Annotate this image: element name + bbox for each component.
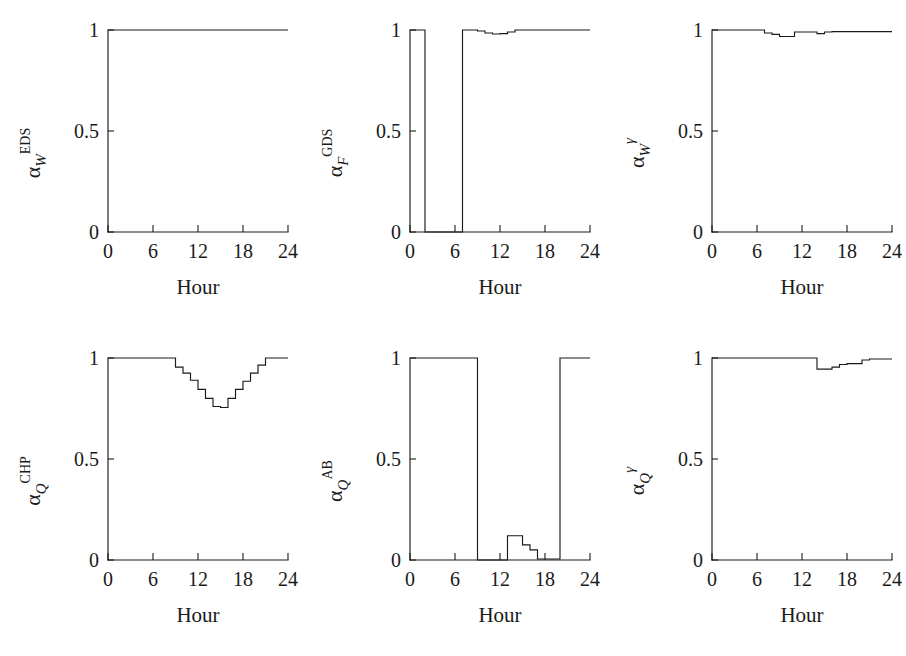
y-tick-label: 0.5	[74, 120, 99, 142]
y-tick-label: 0.5	[376, 120, 401, 142]
x-tick-label: 18	[837, 568, 857, 590]
x-tick-label: 0	[103, 240, 113, 262]
y-tick-label: 0.5	[74, 448, 99, 470]
x-tick-label: 24	[882, 240, 902, 262]
plot-svg-4: 00.5106121824HourαQAB	[302, 328, 604, 656]
y-tick-label: 0	[391, 221, 401, 243]
x-tick-label: 24	[278, 568, 298, 590]
y-axis-label: αQγ	[621, 466, 653, 495]
y-tick-label: 0	[391, 549, 401, 571]
panel-alpha-w-eds: 00.5106121824HourαWEDS	[0, 0, 302, 328]
panel-alpha-q-ab: 00.5106121824HourαQAB	[302, 328, 604, 656]
y-tick-label: 1	[89, 19, 99, 41]
data-series-line	[712, 30, 892, 36]
x-tick-label: 12	[490, 240, 510, 262]
y-tick-label: 0	[89, 549, 99, 571]
x-axis-title: Hour	[478, 275, 521, 299]
x-tick-label: 6	[752, 568, 762, 590]
x-tick-label: 24	[580, 240, 600, 262]
plot-svg-2: 00.5106121824HourαWγ	[604, 0, 906, 328]
x-tick-label: 12	[188, 240, 208, 262]
svg-text:αWγ: αWγ	[621, 137, 653, 168]
x-tick-label: 12	[490, 568, 510, 590]
x-tick-label: 12	[792, 568, 812, 590]
x-axis-title: Hour	[176, 603, 219, 627]
x-tick-label: 24	[882, 568, 902, 590]
y-tick-label: 0.5	[678, 448, 703, 470]
x-tick-label: 0	[707, 568, 717, 590]
y-tick-label: 0.5	[678, 120, 703, 142]
plot-svg-3: 00.5106121824HourαQCHP	[0, 328, 302, 656]
y-tick-label: 0	[89, 221, 99, 243]
x-tick-label: 18	[535, 240, 555, 262]
data-series-line	[108, 358, 288, 407]
x-tick-label: 6	[752, 240, 762, 262]
x-axis-title: Hour	[780, 275, 823, 299]
panel-alpha-q-gamma: 00.5106121824HourαQγ	[604, 328, 906, 656]
x-axis-title: Hour	[478, 603, 521, 627]
svg-text:αQγ: αQγ	[621, 466, 653, 495]
x-tick-label: 12	[792, 240, 812, 262]
x-tick-label: 18	[837, 240, 857, 262]
x-tick-label: 0	[103, 568, 113, 590]
panel-alpha-q-chp: 00.5106121824HourαQCHP	[0, 328, 302, 656]
data-series-line	[712, 358, 892, 369]
y-tick-label: 0	[693, 221, 703, 243]
y-tick-label: 0	[693, 549, 703, 571]
y-tick-label: 1	[391, 347, 401, 369]
x-tick-label: 6	[450, 240, 460, 262]
y-axis-label: αQCHP	[18, 456, 49, 506]
x-tick-label: 6	[148, 240, 158, 262]
data-series-line	[410, 358, 590, 560]
x-tick-label: 6	[148, 568, 158, 590]
y-tick-label: 1	[89, 347, 99, 369]
panel-grid: 00.5106121824HourαWEDS 00.5106121824Hour…	[0, 0, 906, 656]
x-tick-label: 0	[707, 240, 717, 262]
x-axis-title: Hour	[780, 603, 823, 627]
x-tick-label: 18	[233, 240, 253, 262]
y-tick-label: 0.5	[376, 448, 401, 470]
svg-text:αQCHP: αQCHP	[18, 456, 49, 506]
y-axis-label: αFGDS	[320, 129, 351, 178]
data-series-line	[410, 30, 590, 232]
y-axis-label: αQAB	[320, 460, 351, 502]
plot-svg-1: 00.5106121824HourαFGDS	[302, 0, 604, 328]
panel-alpha-w-gamma: 00.5106121824HourαWγ	[604, 0, 906, 328]
figure-root: 00.5106121824HourαWEDS 00.5106121824Hour…	[0, 0, 906, 656]
x-tick-label: 0	[405, 240, 415, 262]
plot-svg-0: 00.5106121824HourαWEDS	[0, 0, 302, 328]
x-tick-label: 6	[450, 568, 460, 590]
x-tick-label: 12	[188, 568, 208, 590]
y-axis-label: αWEDS	[18, 128, 49, 178]
y-tick-label: 1	[391, 19, 401, 41]
x-tick-label: 24	[580, 568, 600, 590]
y-axis-label: αWγ	[621, 137, 653, 168]
y-tick-label: 1	[693, 19, 703, 41]
panel-alpha-f-gds: 00.5106121824HourαFGDS	[302, 0, 604, 328]
x-tick-label: 18	[535, 568, 555, 590]
svg-text:αWEDS: αWEDS	[18, 128, 49, 178]
svg-text:αFGDS: αFGDS	[320, 129, 351, 178]
x-tick-label: 18	[233, 568, 253, 590]
y-tick-label: 1	[693, 347, 703, 369]
x-axis-title: Hour	[176, 275, 219, 299]
x-tick-label: 0	[405, 568, 415, 590]
svg-text:αQAB: αQAB	[320, 460, 351, 502]
x-tick-label: 24	[278, 240, 298, 262]
plot-svg-5: 00.5106121824HourαQγ	[604, 328, 906, 656]
